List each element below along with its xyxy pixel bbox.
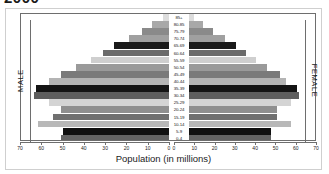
- tick-label-10: 10: [192, 145, 198, 151]
- tick-label-50: 50: [60, 145, 66, 151]
- tick-label-20: 20: [212, 145, 218, 151]
- age-group-labels: 85+80-8575-7970-7465-6960-6455-5950-5445…: [169, 14, 189, 140]
- tick-label-10: 10: [145, 145, 151, 151]
- chart-title: 2000: [4, 0, 39, 5]
- bar-male-0-4: [61, 135, 169, 140]
- figure-plate: MALE FEMALE 85+80-8575-7970-7465-6960-64…: [5, 8, 322, 170]
- age-label-30-34: 30-34: [169, 92, 189, 99]
- tick-label-60: 60: [293, 145, 299, 151]
- bar-male-40-44: [49, 78, 170, 85]
- age-label-65-69: 65-69: [169, 42, 189, 49]
- bar-female-40-44: [187, 78, 286, 85]
- age-label-10-14: 10-14: [169, 121, 189, 128]
- age-label-60-64: 60-64: [169, 50, 189, 57]
- tick-label-20: 20: [124, 145, 130, 151]
- tick-label-70: 70: [17, 145, 23, 151]
- age-label-70-74: 70-74: [169, 35, 189, 42]
- age-label-35-39: 35-39: [169, 85, 189, 92]
- age-label-50-54: 50-54: [169, 64, 189, 71]
- bar-female-25-29: [187, 99, 291, 106]
- age-label-0-4: 0-4: [169, 135, 189, 142]
- tick-label-30: 30: [102, 145, 108, 151]
- bar-female-70-74: [187, 35, 225, 42]
- age-label-80-85: 80-85: [169, 21, 189, 28]
- tick-label-50: 50: [273, 145, 279, 151]
- bar-female-55-59: [187, 57, 256, 64]
- bar-male-50-54: [76, 64, 169, 71]
- tick-label-30: 30: [232, 145, 238, 151]
- age-label-85+: 85+: [169, 14, 189, 21]
- bar-male-55-59: [91, 57, 169, 64]
- bar-male-20-24: [61, 106, 169, 113]
- bar-female-35-39: [187, 85, 297, 92]
- age-label-40-44: 40-44: [169, 78, 189, 85]
- bar-female-5-9: [187, 128, 271, 135]
- female-bars: [187, 14, 315, 140]
- bar-female-65-69: [187, 42, 236, 49]
- bar-female-30-34: [187, 92, 299, 99]
- age-label-20-24: 20-24: [169, 106, 189, 113]
- age-label-5-9: 5-9: [169, 128, 189, 135]
- bar-male-80-85: [152, 21, 169, 28]
- bar-female-75-79: [187, 28, 213, 35]
- bar-male-75-79: [142, 28, 169, 35]
- age-label-75-79: 75-79: [169, 28, 189, 35]
- bar-male-25-29: [49, 99, 170, 106]
- bar-female-20-24: [187, 106, 277, 113]
- age-label-45-49: 45-49: [169, 71, 189, 78]
- bar-female-0-4: [187, 135, 271, 140]
- bar-male-60-64: [103, 50, 169, 57]
- bar-male-10-14: [38, 121, 169, 128]
- bar-female-10-14: [187, 121, 291, 128]
- age-label-25-29: 25-29: [169, 99, 189, 106]
- tick-label-40: 40: [252, 145, 258, 151]
- bar-female-15-19: [187, 114, 277, 121]
- tick-label-0: 0: [168, 145, 171, 151]
- bar-male-30-34: [34, 92, 169, 99]
- tick-label-0: 0: [173, 145, 176, 151]
- bar-male-5-9: [63, 128, 169, 135]
- bar-male-45-49: [61, 71, 169, 78]
- tick-label-70: 70: [313, 145, 319, 151]
- bar-female-60-64: [187, 50, 246, 57]
- tick-label-60: 60: [39, 145, 45, 151]
- bar-male-15-19: [53, 114, 169, 121]
- bar-male-65-69: [114, 42, 169, 49]
- bar-male-35-39: [36, 85, 169, 92]
- bar-male-70-74: [129, 35, 169, 42]
- tick-label-40: 40: [81, 145, 87, 151]
- female-axis-line: [174, 142, 316, 143]
- bar-female-45-49: [187, 71, 280, 78]
- bar-female-50-54: [187, 64, 267, 71]
- age-label-15-19: 15-19: [169, 114, 189, 121]
- bar-female-80-85: [187, 21, 203, 28]
- male-bars: [21, 14, 169, 140]
- plot-area: MALE FEMALE 85+80-8575-7970-7465-6960-64…: [20, 13, 316, 141]
- male-axis-line: [20, 142, 169, 143]
- age-label-55-59: 55-59: [169, 57, 189, 64]
- x-axis-title: Population (in millions): [6, 153, 321, 164]
